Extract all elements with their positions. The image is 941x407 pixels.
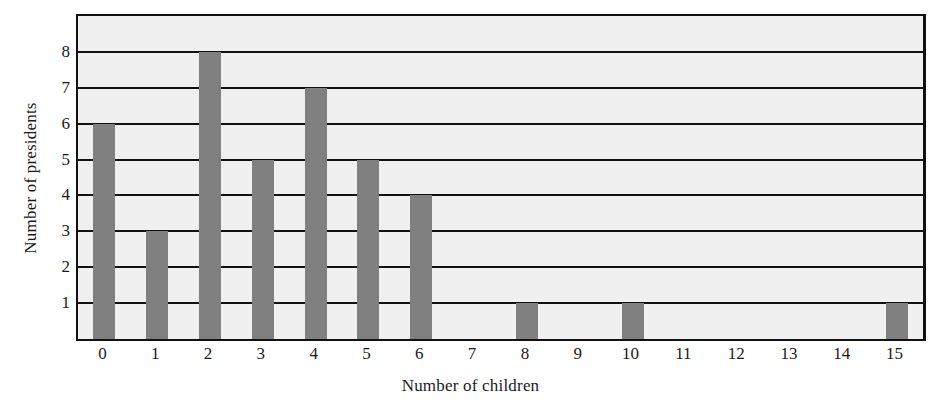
y-tick-label: 2 xyxy=(44,258,70,275)
y-tick-label: 8 xyxy=(44,43,70,60)
bar xyxy=(410,195,432,339)
x-tick-label: 15 xyxy=(875,344,915,364)
y-tick-label: 7 xyxy=(44,79,70,96)
x-tick-label: 11 xyxy=(663,344,703,364)
y-tick-label: 3 xyxy=(44,222,70,239)
bar xyxy=(357,160,379,339)
x-axis-title: Number of children xyxy=(0,376,941,396)
bar xyxy=(622,303,644,339)
bar xyxy=(93,124,115,339)
x-tick-label: 3 xyxy=(241,344,281,364)
plot-area xyxy=(76,14,926,341)
y-tick-label: 5 xyxy=(44,151,70,168)
bar xyxy=(199,52,221,339)
x-tick-label: 6 xyxy=(399,344,439,364)
x-tick-label: 5 xyxy=(346,344,386,364)
x-tick-label: 9 xyxy=(558,344,598,364)
bar xyxy=(886,303,908,339)
bar xyxy=(146,231,168,339)
bar-chart-figure: Number of presidents 12345678 0123456789… xyxy=(0,0,941,407)
x-tick-label: 1 xyxy=(135,344,175,364)
y-tick-label: 4 xyxy=(44,186,70,203)
y-tick-label: 1 xyxy=(44,294,70,311)
y-axis-tick-labels: 12345678 xyxy=(36,14,70,341)
bar xyxy=(516,303,538,339)
x-tick-label: 2 xyxy=(188,344,228,364)
bar xyxy=(305,88,327,339)
x-tick-label: 13 xyxy=(769,344,809,364)
x-tick-label: 12 xyxy=(716,344,756,364)
x-tick-label: 4 xyxy=(294,344,334,364)
y-tick-label: 6 xyxy=(44,115,70,132)
x-tick-label: 10 xyxy=(611,344,651,364)
x-tick-label: 0 xyxy=(82,344,122,364)
x-tick-label: 14 xyxy=(822,344,862,364)
x-tick-label: 8 xyxy=(505,344,545,364)
x-axis-tick-labels: 0123456789101112131415 xyxy=(76,344,926,370)
x-tick-label: 7 xyxy=(452,344,492,364)
bar xyxy=(252,160,274,339)
